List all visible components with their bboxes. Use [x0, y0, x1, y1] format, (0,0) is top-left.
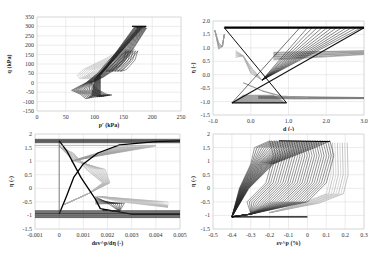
y-tick-label: 1.0 [203, 45, 211, 51]
y-tick-label: 250 [25, 33, 34, 39]
y-tick-label: 1.5 [203, 145, 211, 151]
y-tick-label: 0 [29, 185, 32, 191]
chart-epsv-eta-plot: -0.5-0.4-0.3-0.2-0.100.10.20.321.510.50-… [191, 131, 382, 262]
data-series [215, 28, 364, 103]
y-tick-label: 0.0 [203, 72, 211, 78]
y-tick-label: -150 [23, 108, 34, 114]
y-tick-label: -1.5 [23, 226, 33, 232]
chart-d-eta: -1.00.01.02.03.02.01.51.00.50.0-0.5-1.0-… [191, 0, 382, 131]
y-tick-label: 50 [28, 70, 34, 76]
y-tick-label: -1.5 [201, 226, 211, 232]
x-tick-label: 150 [119, 114, 128, 120]
x-tick-label: 0.004 [149, 232, 163, 238]
chart-p-q: 050100150200250350300250200150100500-50-… [0, 0, 191, 131]
x-tick-label: -0.1 [284, 232, 294, 238]
chart-d-eta-plot: -1.00.01.02.03.02.01.51.00.50.0-0.5-1.0-… [191, 0, 382, 131]
y-tick-label: 1 [207, 158, 210, 164]
y-tick-label: 150 [25, 52, 34, 58]
y-tick-label: 2 [29, 131, 32, 137]
tick-labels: -1.00.01.02.03.02.01.51.00.50.0-0.5-1.0-… [201, 18, 368, 124]
chart-epsv-eta: -0.5-0.4-0.3-0.2-0.100.10.20.321.510.50-… [191, 131, 382, 262]
x-tick-label: -0.4 [227, 232, 237, 238]
data-series [232, 141, 348, 217]
x-tick-label: 0 [306, 232, 309, 238]
y-tick-label: -0.5 [201, 199, 211, 205]
y-axis-label: η (-) [8, 176, 15, 187]
chart-p-q-plot: 050100150200250350300250200150100500-50-… [0, 0, 191, 131]
x-tick-label: 0.1 [323, 232, 331, 238]
y-tick-label: -50 [26, 89, 34, 95]
y-axis-label: η (-) [191, 63, 197, 74]
x-tick-label: 0.3 [360, 232, 368, 238]
x-tick-label: 0.003 [125, 232, 139, 238]
x-tick-label: 0.002 [101, 232, 115, 238]
y-tick-label: -1.0 [201, 99, 211, 105]
x-tick-label: -0.5 [208, 232, 218, 238]
x-tick-label: -0.001 [27, 232, 43, 238]
y-tick-label: 2 [207, 131, 210, 137]
y-tick-label: 0.5 [203, 172, 211, 178]
x-axis-label: εv^p (%) [277, 240, 301, 247]
y-axis-label: q (kPa) [6, 55, 13, 74]
x-tick-label: 0.0 [247, 118, 255, 124]
x-tick-label: 0 [58, 232, 61, 238]
y-tick-label: -1 [27, 212, 32, 218]
y-tick-label: 1 [29, 158, 32, 164]
x-tick-label: 0.005 [173, 232, 187, 238]
x-tick-label: -0.3 [246, 232, 256, 238]
x-tick-label: 0.2 [341, 232, 349, 238]
y-tick-label: -1.5 [201, 112, 211, 118]
y-tick-label: 300 [25, 23, 34, 29]
x-tick-label: 1.0 [285, 118, 293, 124]
x-tick-label: -1.0 [208, 118, 218, 124]
x-tick-label: 100 [90, 114, 99, 120]
y-tick-label: 2.0 [203, 18, 211, 24]
x-tick-label: 200 [148, 114, 157, 120]
y-tick-label: 0.5 [25, 172, 33, 178]
y-tick-label: -0.5 [23, 199, 33, 205]
y-tick-label: 0 [31, 80, 34, 86]
y-tick-label: -1 [205, 212, 210, 218]
y-tick-label: 350 [25, 14, 34, 20]
x-axis-label: p' (kPa) [99, 122, 120, 129]
x-tick-label: 0.001 [77, 232, 91, 238]
y-tick-label: 200 [25, 42, 34, 48]
y-axis-label: η (-) [191, 176, 197, 187]
y-tick-label: 1.5 [203, 31, 211, 37]
y-tick-label: 1.5 [25, 145, 33, 151]
x-tick-label: 250 [177, 114, 186, 120]
y-tick-label: 0 [207, 185, 210, 191]
chart-deps-eta-plot: -0.00100.0010.0020.0030.0040.00521.510.5… [0, 131, 191, 262]
x-tick-label: 2.0 [323, 118, 331, 124]
y-tick-label: 100 [25, 61, 34, 67]
y-tick-label: -100 [23, 99, 34, 105]
chart-deps-eta: -0.00100.0010.0020.0030.0040.00521.510.5… [0, 131, 191, 262]
x-tick-label: -0.2 [265, 232, 275, 238]
data-series [72, 26, 147, 98]
x-tick-label: 50 [63, 114, 69, 120]
y-tick-label: -0.5 [201, 85, 211, 91]
x-axis-label: dεv^p/dη (-) [92, 240, 124, 247]
x-tick-label: 0 [36, 114, 39, 120]
y-tick-label: 0.5 [203, 58, 211, 64]
x-tick-label: 3.0 [360, 118, 368, 124]
